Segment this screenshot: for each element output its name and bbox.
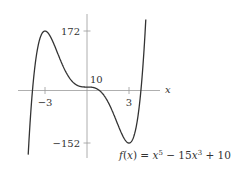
y-tick-label-172: 172 (61, 26, 80, 37)
function-label: f(x) = x5 − 15x3 + 10 (118, 149, 231, 161)
x-tick-label-neg3: −3 (38, 97, 53, 108)
y-tick-label-10: 10 (90, 74, 103, 85)
function-plot: −3 3 172 10 −152 x f(x) = x5 − 15x3 + 10 (0, 0, 234, 172)
x-axis-label: x (165, 84, 171, 95)
function-label-close: ) = (133, 149, 153, 161)
function-label-mid: − 15 (163, 149, 192, 161)
function-label-tail: + 10 (202, 149, 231, 161)
x-tick-label-3: 3 (126, 97, 132, 108)
y-tick-label-neg152: −152 (53, 138, 80, 149)
